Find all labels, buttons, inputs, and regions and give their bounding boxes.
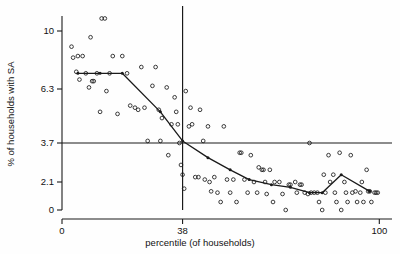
data-point [317,200,321,204]
scatter-plot-svg: 02.13.76.310038100 percentile (of househ… [0,0,400,254]
x-tick-label-0: 0 [59,225,64,236]
data-point [89,35,93,39]
data-point [331,173,335,177]
data-point [76,54,80,58]
data-point [246,191,250,195]
data-point [281,192,285,196]
data-point [216,191,220,195]
data-point [120,54,124,58]
axes-group [57,16,392,224]
data-point [174,110,178,114]
data-point [343,180,347,184]
data-point [228,191,232,195]
y-tick-label-2: 3.7 [41,137,54,148]
x-tick-label-1: 38 [177,225,188,236]
data-point [360,180,364,184]
data-point [208,180,212,184]
data-point [151,84,155,88]
data-point [198,108,202,112]
data-point [190,122,194,126]
y-tick-label-0: 0 [49,204,54,215]
data-point [212,175,216,179]
data-point [265,192,269,196]
data-point [355,200,359,204]
data-point [70,45,74,49]
data-point [338,151,342,155]
data-point [320,208,324,212]
trend-vertex [340,173,343,176]
data-point [173,95,177,99]
data-point [344,191,348,195]
x-tick-label-2: 100 [371,225,387,236]
data-point [176,122,180,126]
data-point [232,178,236,182]
data-point [295,191,299,195]
data-point [346,200,350,204]
data-point [273,180,277,184]
data-point [365,168,369,172]
data-point [189,106,193,110]
x-axis-title: percentile (of households) [145,237,254,248]
data-point [271,200,275,204]
data-point [284,208,288,212]
data-point [249,153,253,157]
y-tick-label-4: 10 [43,25,54,36]
data-point [105,89,109,93]
trend-vertex [229,168,232,171]
data-point [111,54,115,58]
data-point [362,200,366,204]
chart-canvas: 02.13.76.310038100 percentile (of househ… [0,0,400,254]
data-point [339,208,343,212]
data-point [354,189,358,193]
data-point [166,153,170,157]
data-point [209,189,213,193]
trend-vertex [308,191,311,194]
data-point [146,139,150,143]
data-point [293,180,297,184]
trend-vertex [206,156,209,159]
y-tick-label-3: 6.3 [41,83,54,94]
data-point [327,153,331,157]
data-point [349,153,353,157]
data-point [78,78,82,82]
trend-vertex [76,72,79,75]
data-point [139,65,143,69]
data-point [203,178,207,182]
trend-vertex [121,72,124,75]
data-point [160,116,164,120]
trend-vertex [181,139,184,142]
data-point [128,104,132,108]
tick-labels-group: 02.13.76.310038100 [41,25,387,236]
data-point [222,125,226,129]
trend-line-group [76,72,371,194]
trend-vertex [289,186,292,189]
data-point [255,191,259,195]
data-point [268,168,272,172]
data-point [370,200,374,204]
data-point [71,56,75,60]
data-point [335,200,339,204]
data-point [225,178,229,182]
data-point [219,200,223,204]
data-point [87,86,91,90]
data-point [235,200,239,204]
data-point [165,86,169,90]
data-point [125,71,129,75]
data-point [278,180,282,184]
reference-lines-group [62,6,392,210]
trend-vertex [248,178,251,181]
data-point [143,106,147,110]
trend-vertex [99,72,102,75]
y-axis-title: % of households with SA [5,61,16,167]
data-point [116,112,120,116]
trend-vertex [159,110,162,113]
chart-figure: 02.13.76.310038100 percentile (of househ… [0,0,400,254]
data-point [333,191,337,195]
data-point [81,54,85,58]
trend-vertex [368,190,371,193]
trend-vertex [270,183,273,186]
data-point [136,108,140,112]
data-point [159,139,163,143]
trend-vertex [321,191,324,194]
y-tick-label-1: 2.1 [41,176,54,187]
